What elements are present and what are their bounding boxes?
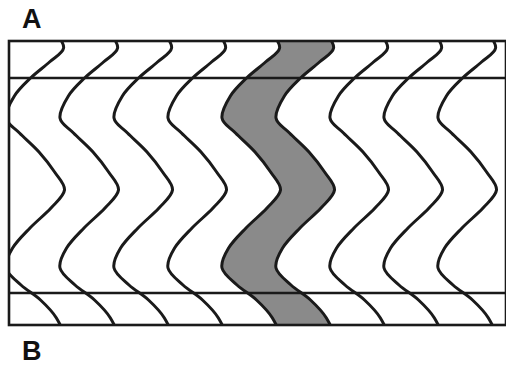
seismic-figure: A B [0, 0, 506, 378]
seismic-trace-plot [0, 0, 506, 378]
panel-label-b: B [22, 338, 42, 365]
panel-label-a: A [22, 6, 42, 33]
